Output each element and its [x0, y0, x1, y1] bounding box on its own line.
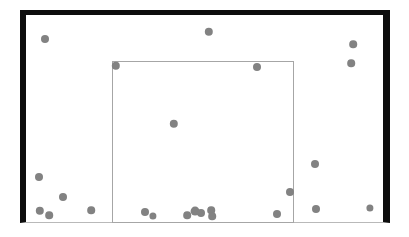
scatter-point: [208, 212, 216, 220]
scatter-point: [87, 206, 95, 214]
scatter-point: [35, 173, 43, 181]
scatter-plot-figure: [0, 0, 409, 237]
scatter-point: [349, 40, 357, 48]
scatter-point: [366, 204, 373, 211]
scatter-point: [170, 120, 178, 128]
data-point-layer: [0, 0, 409, 237]
scatter-point: [311, 160, 319, 168]
scatter-point: [36, 207, 44, 215]
scatter-point: [45, 211, 53, 219]
scatter-point: [253, 63, 261, 71]
scatter-point: [197, 209, 205, 217]
scatter-point: [347, 59, 355, 67]
scatter-point: [205, 28, 213, 36]
scatter-point: [183, 211, 191, 219]
scatter-point: [141, 208, 149, 216]
scatter-point: [112, 62, 120, 70]
scatter-point: [273, 210, 281, 218]
scatter-point: [41, 35, 49, 43]
scatter-point: [312, 205, 320, 213]
scatter-point: [286, 188, 294, 196]
scatter-point: [149, 212, 156, 219]
scatter-point: [59, 193, 67, 201]
